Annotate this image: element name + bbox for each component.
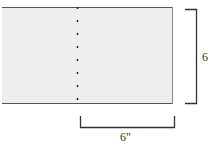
right-dimension-bracket <box>185 10 197 104</box>
right-dimension-label: 6 <box>202 50 208 64</box>
bottom-dimension-label: 6" <box>120 130 131 144</box>
paper-rectangle <box>2 7 173 104</box>
bottom-dimension-bracket <box>81 116 175 128</box>
diagram-canvas: 6 6" <box>0 0 208 145</box>
